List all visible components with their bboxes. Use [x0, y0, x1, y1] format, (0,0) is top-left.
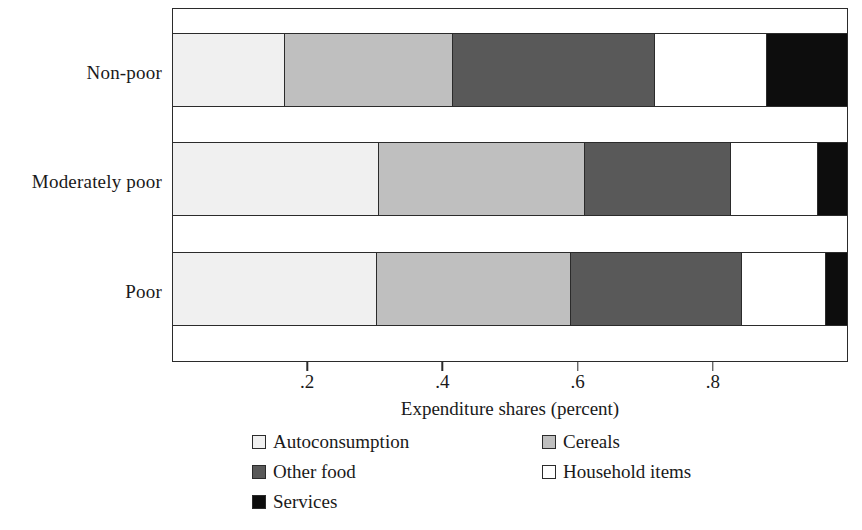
x-axis-title: Expenditure shares (percent): [172, 398, 848, 420]
x-tick-label-0.4: .4: [435, 372, 449, 391]
legend-item-household-items: Household items: [542, 462, 691, 481]
legend-item-services: Services: [252, 492, 337, 511]
legend-item-other-food: Other food: [252, 462, 356, 481]
legend-label-household-items: Household items: [563, 462, 691, 481]
x-tick-0.4: [442, 362, 443, 371]
bar-segment-cereals: [285, 34, 453, 106]
bar-segment-cereals: [379, 143, 586, 215]
bar-segment-autoconsumption: [173, 143, 379, 215]
x-axis-ticks: [172, 362, 848, 372]
bar-row-poor: [173, 252, 847, 326]
x-tick-label-0.6: .6: [570, 372, 584, 391]
bar-segment-services: [818, 143, 847, 215]
plot-area: [172, 8, 848, 362]
x-axis-tick-labels: .2 .4 .6 .8: [172, 372, 848, 396]
bar-row-non-poor: [173, 33, 847, 107]
legend-label-other-food: Other food: [273, 462, 356, 481]
legend-swatch-autoconsumption-icon: [252, 435, 266, 449]
bar-row-moderately-poor: [173, 142, 847, 216]
legend-label-autoconsumption: Autoconsumption: [273, 432, 409, 451]
bar-segment-cereals: [377, 253, 571, 325]
x-tick-0.2: [306, 362, 307, 371]
legend-swatch-household-items-icon: [542, 465, 556, 479]
category-label-poor: Poor: [0, 282, 162, 301]
chart-legend: Autoconsumption Other food Services Cere…: [252, 432, 852, 524]
x-tick-0.6: [577, 362, 578, 371]
legend-item-cereals: Cereals: [542, 432, 620, 451]
bar-segment-services: [826, 253, 847, 325]
bar-segment-other-food: [585, 143, 731, 215]
bar-segment-household-items: [742, 253, 826, 325]
bar-segment-other-food: [453, 34, 655, 106]
legend-label-cereals: Cereals: [563, 432, 620, 451]
stacked-bar-chart: Non-poor Moderately poor Poor: [0, 0, 862, 530]
bar-segment-services: [767, 34, 847, 106]
legend-label-services: Services: [273, 492, 337, 511]
category-label-moderately-poor: Moderately poor: [0, 172, 162, 191]
legend-swatch-services-icon: [252, 495, 266, 509]
bars-layer: [173, 9, 847, 361]
category-label-non-poor: Non-poor: [0, 63, 162, 82]
legend-swatch-cereals-icon: [542, 435, 556, 449]
bar-segment-autoconsumption: [173, 34, 285, 106]
x-tick-label-0.8: .8: [706, 372, 720, 391]
legend-swatch-other-food-icon: [252, 465, 266, 479]
legend-item-autoconsumption: Autoconsumption: [252, 432, 409, 451]
category-axis-labels: Non-poor Moderately poor Poor: [0, 0, 162, 530]
bar-segment-household-items: [731, 143, 818, 215]
bar-segment-autoconsumption: [173, 253, 377, 325]
x-tick-0.8: [712, 362, 713, 371]
bar-segment-other-food: [571, 253, 742, 325]
bar-segment-household-items: [655, 34, 767, 106]
x-tick-label-0.2: .2: [300, 372, 314, 391]
